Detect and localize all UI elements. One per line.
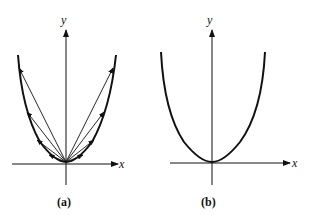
panel-a: x y (a)	[12, 13, 125, 209]
vector-arrow	[66, 68, 113, 162]
vector-arrow	[27, 112, 66, 162]
panel-b: x y (b)	[161, 13, 298, 209]
y-axis-label: y	[60, 13, 67, 27]
figure: x y (a) x y (b)	[0, 0, 310, 219]
parabola-curve	[18, 55, 116, 162]
panel-caption: (a)	[57, 195, 71, 209]
panel-caption: (b)	[201, 195, 216, 209]
x-axis-label: x	[118, 157, 125, 171]
vector-arrow	[19, 68, 66, 162]
x-axis-label: x	[291, 156, 298, 170]
vector-arrow	[66, 112, 104, 162]
y-axis-label: y	[206, 13, 213, 27]
parabola-curve	[161, 52, 265, 162]
